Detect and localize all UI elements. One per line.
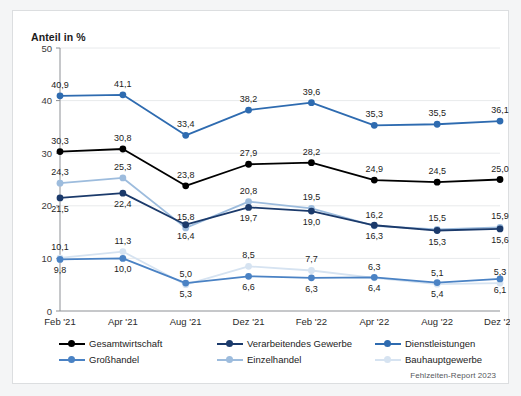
legend-label: Verarbeitendes Gewerbe [247,338,352,349]
data-point-label: 19,7 [240,213,258,223]
data-point[interactable] [308,99,315,106]
data-point-label: 5,4 [431,289,444,299]
data-point[interactable] [371,274,378,281]
data-point-label: 23,8 [177,170,195,180]
data-point-label: 6,3 [368,262,381,272]
data-point-label: 11,3 [114,236,131,246]
legend-marker-icon [59,355,85,365]
chart-legend: Gesamtwirtschaft Verarbeitendes Gewerbe … [59,338,479,365]
legend-marker-icon [217,355,243,365]
data-point[interactable] [57,92,64,99]
data-point-label: 5,0 [179,269,192,279]
data-point[interactable] [497,118,504,125]
data-point-label: 21,5 [51,204,69,214]
data-point-label: 10,1 [51,242,69,252]
data-point[interactable] [57,256,64,263]
data-point[interactable] [308,208,315,215]
legend-item-grosshandel[interactable]: Großhandel [59,354,217,365]
data-point[interactable] [434,227,441,234]
data-point-label: 6,3 [305,284,318,294]
data-point-label: 25,3 [114,162,132,172]
data-point-label: 5,1 [431,268,444,278]
data-point[interactable] [308,267,315,274]
data-point[interactable] [434,179,441,186]
data-point[interactable] [182,182,189,189]
data-point-labels: 30,330,823,827,928,224,924,525,021,522,4… [51,79,509,299]
x-tick-label: Apr '21 [108,316,138,327]
legend-item-gesamtwirtschaft[interactable]: Gesamtwirtschaft [59,338,217,349]
data-point[interactable] [245,107,252,114]
data-point-label: 40,9 [51,80,69,90]
data-point[interactable] [434,279,441,286]
chart-figure: Anteil in % 01020304050 Feb '21Apr '21Au… [12,10,509,384]
data-point[interactable] [245,198,252,205]
data-point[interactable] [245,204,252,211]
data-point[interactable] [371,122,378,129]
source-credit: Fehlzeiten-Report 2023 [410,371,496,380]
data-point[interactable] [245,263,252,270]
data-point[interactable] [497,226,504,233]
data-point[interactable] [308,159,315,166]
x-tick-label: Feb '22 [296,316,327,327]
data-point-label: 15,6 [491,235,509,245]
x-tick-label: Aug '22 [421,316,453,327]
data-point[interactable] [119,146,126,153]
legend-marker-icon [375,339,401,349]
y-tick-label: 10 [41,253,52,264]
data-point[interactable] [371,222,378,229]
data-point-label: 20,8 [240,186,258,196]
y-tick-label: 0 [47,306,52,317]
data-point-label: 25,0 [491,164,509,174]
data-point-label: 35,5 [428,108,446,118]
data-point-label: 15,9 [491,211,509,221]
data-point-label: 19,0 [303,217,321,227]
y-tick-label: 40 [41,95,52,106]
data-point[interactable] [119,255,126,262]
legend-marker-icon [217,339,243,349]
y-tick-label: 30 [41,148,52,159]
x-tick-label: Apr '22 [359,316,389,327]
data-point-label: 16,2 [366,210,384,220]
data-point-label: 15,5 [428,213,446,223]
data-point[interactable] [57,148,64,155]
x-tick-label: Dez '22 [484,316,510,327]
x-tick-labels: Feb '21Apr '21Aug '21Dez '21Feb '22Apr '… [44,316,510,327]
data-point[interactable] [371,177,378,184]
legend-item-verarbeitendes-gewerbe[interactable]: Verarbeitendes Gewerbe [217,338,375,349]
legend-item-dienstleistungen[interactable]: Dienstleistungen [375,338,485,349]
data-point-label: 30,8 [114,133,132,143]
data-point-label: 24,9 [366,164,384,174]
data-point[interactable] [245,161,252,168]
data-point[interactable] [57,180,64,187]
data-point[interactable] [245,273,252,280]
plot-area: Anteil in % 01020304050 Feb '21Apr '21Au… [13,11,508,383]
data-point[interactable] [182,221,189,228]
data-point[interactable] [119,248,126,255]
data-point[interactable] [119,190,126,197]
data-point[interactable] [182,280,189,287]
legend-item-bauhauptgewerbe[interactable]: Bauhauptgewerbe [375,354,485,365]
data-point-label: 5,3 [494,267,507,277]
data-point-label: 38,2 [240,94,258,104]
data-point[interactable] [57,195,64,202]
data-point-label: 9,8 [54,265,67,275]
data-point-label: 6,6 [242,282,255,292]
legend-item-einzelhandel[interactable]: Einzelhandel [217,354,375,365]
data-point-label: 5,3 [179,289,192,299]
data-point[interactable] [119,91,126,98]
data-point[interactable] [119,175,126,182]
data-point[interactable] [497,176,504,183]
legend-label: Einzelhandel [247,354,301,365]
data-point-label: 35,3 [366,109,384,119]
data-point-label: 19,5 [303,192,321,202]
line-chart: 01020304050 Feb '21Apr '21Aug '21Dez '21… [13,11,510,341]
data-point-label: 7,7 [305,254,318,264]
legend-label: Bauhauptgewerbe [405,354,482,365]
data-point-label: 6,1 [494,285,507,295]
data-point-label: 27,9 [240,148,258,158]
data-point-label: 36,1 [491,105,509,115]
data-point[interactable] [434,121,441,128]
data-point[interactable] [182,132,189,139]
data-point[interactable] [308,274,315,281]
data-point-label: 41,1 [114,79,132,89]
